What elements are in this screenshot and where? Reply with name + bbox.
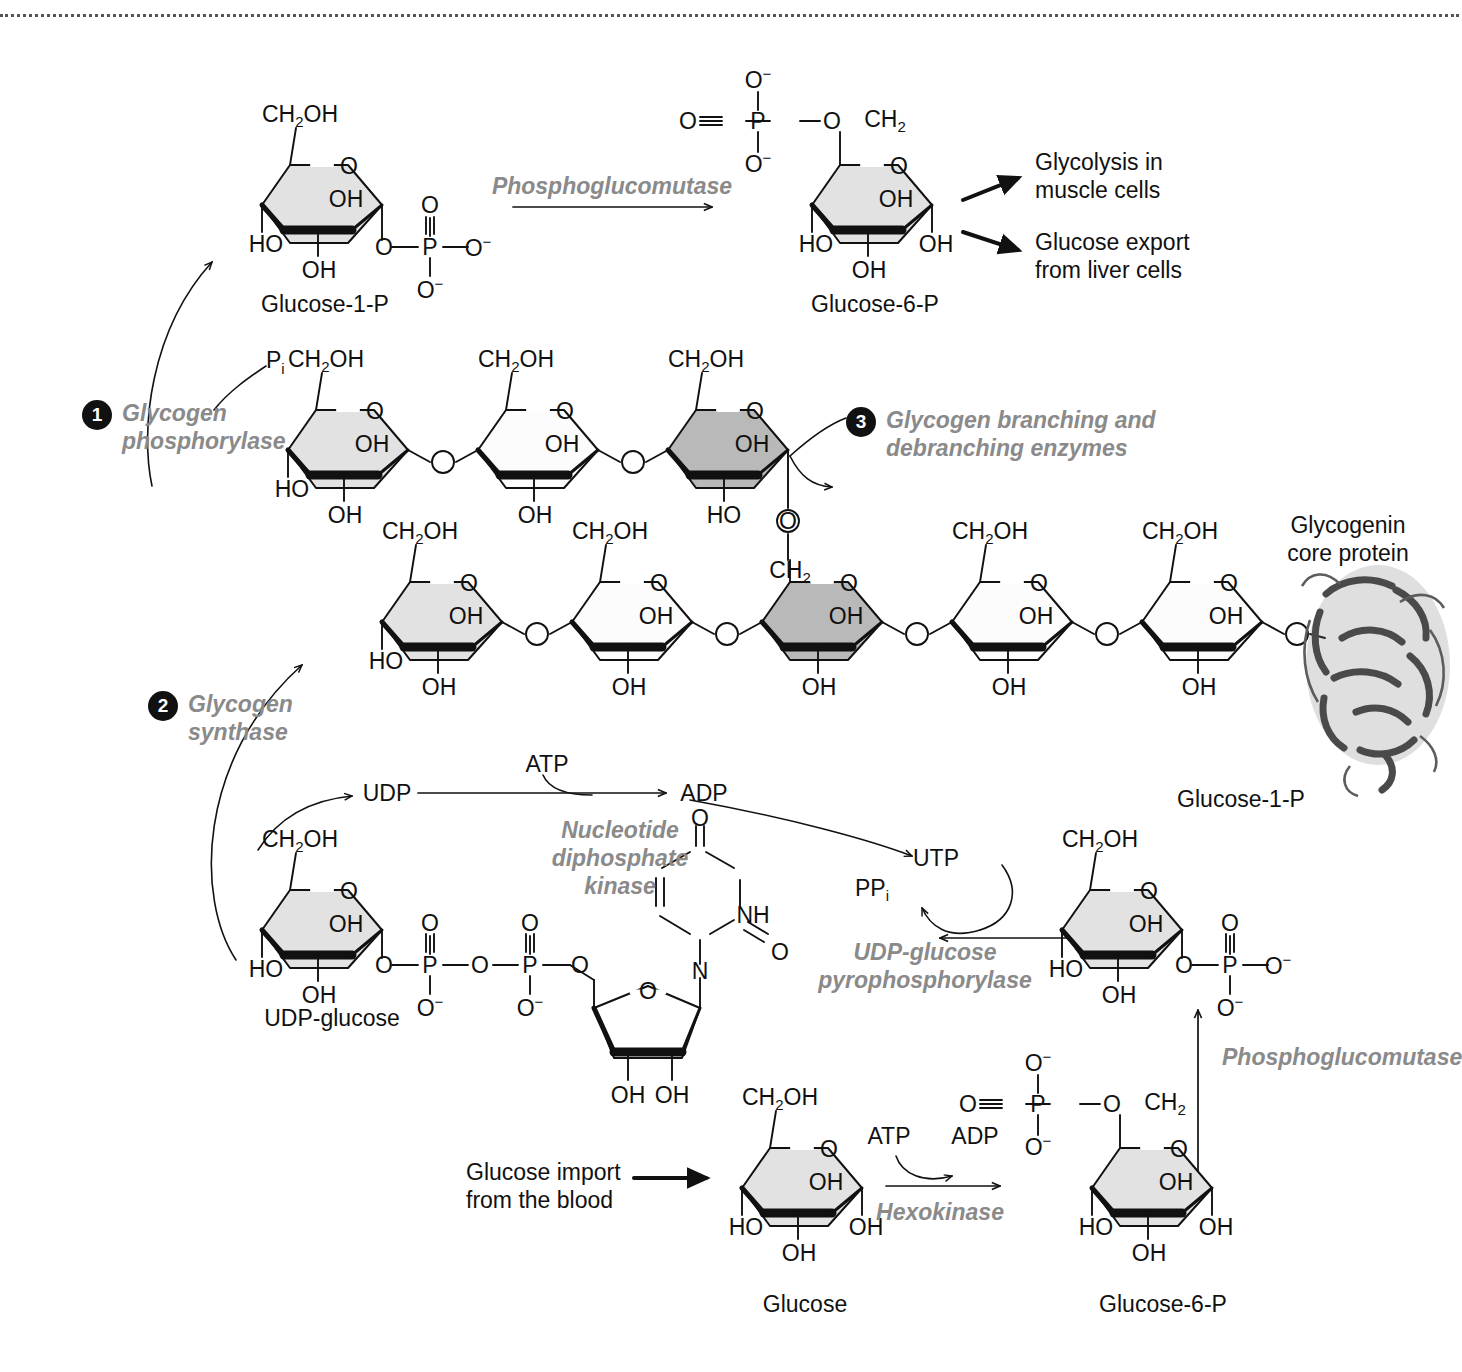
atom-ho-chain-a: HO [275,478,310,501]
atom-ring-o-s3: O [840,572,858,595]
atom-oh-chain-b: OH [545,433,580,456]
atom-oh-ribose-2: OH [655,1084,690,1107]
atom-p1-udpg: P [422,954,437,977]
atom-o-minus2-g6p-top: O− [745,150,772,176]
label-glucose-import: Glucose importfrom the blood [466,1158,621,1214]
enzyme-phosphoglucomutase-bottom: Phosphoglucomutase [1222,1043,1462,1071]
atom-o-branch: O [779,510,797,533]
atom-ch2-g6p-top: CH2 [864,108,906,135]
atom-o-ester-g6p-bottom: O [1103,1093,1121,1116]
atom-o-double-g1p-right: O [1221,912,1239,935]
atom-ch2oh-chain-c: CH2OH [668,348,744,375]
atom-ch2oh-g1p-top: CH2OH [262,103,338,130]
atom-ring-o-chain-b: O [556,400,574,423]
atom-ch2oh-s2: CH2OH [572,520,648,547]
fate-glycolysis-muscle: Glycolysis inmuscle cells [1035,148,1163,204]
atom-ring-o-s5: O [1220,572,1238,595]
step-label-3: Glycogen branching anddebranching enzyme… [886,406,1156,462]
small-molecule-pi: Pi [266,349,285,376]
enzyme-udp-glucose-pyrophosphorylase: UDP-glucosepyrophosphorylase [818,938,1031,994]
atom-ch2oh-chain-a: CH2OH [288,348,364,375]
small-molecule-adp-bottom: ADP [951,1125,998,1148]
atom-ho-g6p-top: HO [799,233,834,256]
enzyme-phosphoglucomutase-top: Phosphoglucomutase [492,172,732,200]
atom-ch2-g6p-bottom: CH2 [1144,1091,1186,1118]
atom-oh-g1p-top: OH [329,188,364,211]
atom-o-ester-g1p-right: O [1175,954,1193,977]
atom-p-g1p-top: P [422,236,437,259]
atom-ch2oh-s5: CH2OH [1142,520,1218,547]
atom-ring-o-s4: O [1030,572,1048,595]
atom-ho-g1p-right: HO [1049,958,1084,981]
atom-ring-o-g1p-right: O [1140,880,1158,903]
atom-o2-uracil: O [771,941,789,964]
atom-oh2-s4: OH [992,676,1027,699]
atom-nh-uracil: NH [736,904,769,927]
atom-o-minus2-g6p-bottom: O− [1025,1133,1052,1159]
atom-o-minus-p2-udpg: O− [517,994,544,1020]
atom-ring-o-udpg: O [340,880,358,903]
small-molecule-ppi: PPi [855,877,889,904]
atom-oh-ribose-3: OH [611,1084,646,1107]
atom-oh3-g6p-top: OH [919,233,954,256]
atom-ring-o-chain-c: O [746,400,764,423]
atom-ring-o-s2: O [650,572,668,595]
atom-o-ester-g6p-top: O [823,110,841,133]
atom-o-ester-g1p-top: O [375,236,393,259]
atom-oh2-g6p-top: OH [852,259,887,282]
atom-oh-g6p-bottom: OH [1159,1171,1194,1194]
atom-o-double-p1-udpg: O [421,912,439,935]
atom-ch2oh-s4: CH2OH [952,520,1028,547]
label-glucose: Glucose [763,1290,847,1318]
step-label-2: Glycogensynthase [188,690,293,746]
atom-o-double-g1p-top: O [421,194,439,217]
atom-oh2-s5: OH [1182,676,1217,699]
step-badge-2: 2 [148,691,178,721]
atom-ring-o-g6p-top: O [890,155,908,178]
atom-oh-chain-c: OH [735,433,770,456]
atom-o-minus2-g1p-top: O− [417,276,444,302]
atom-ho-s1: HO [369,650,404,673]
atom-o-minus-g1p-right: O− [1265,952,1292,978]
atom-ring-o-chain-a: O [366,400,384,423]
atom-oh-glucose: OH [809,1171,844,1194]
atom-oh2-g6p-bottom: OH [1132,1242,1167,1265]
glycogenin-protein-graphic [1302,565,1450,796]
step-badge-1: 1 [82,400,112,430]
atom-ring-o-s1: O [460,572,478,595]
label-glucose-1p-top: Glucose-1-P [261,290,389,318]
atom-o-double-p2-udpg: O [521,912,539,935]
atom-oh2-s1: OH [422,676,457,699]
step-label-1: Glycogenphosphorylase [122,399,286,455]
atom-o-double-g6p-bottom: O [959,1093,977,1116]
step-badge-3: 3 [846,407,876,437]
atom-ribose-ring-o: O [639,980,657,1003]
atom-ch2oh-g1p-right: CH2OH [1062,828,1138,855]
atom-o-double-g6p-top: O [679,110,697,133]
atom-ring-o-glucose: O [820,1138,838,1161]
atom-p-g6p-bottom: P [1030,1093,1045,1116]
atom-oh-s5: OH [1209,605,1244,628]
atom-oh2-g1p-top: OH [302,259,337,282]
atom-o-minus2-g1p-right: O− [1217,994,1244,1020]
atom-oh2-g1p-right: OH [1102,984,1137,1007]
atom-ho-udpg: HO [249,958,284,981]
enzyme-hexokinase: Hexokinase [876,1198,1004,1226]
atom-ch2oh-udpg: CH2OH [262,828,338,855]
fate-glucose-export-liver: Glucose exportfrom liver cells [1035,228,1190,284]
atom-p-g6p-top: P [750,110,765,133]
atom-ch2oh-glucose: CH2OH [742,1086,818,1113]
atom-ch2oh-s1: CH2OH [382,520,458,547]
atom-oh-s2: OH [639,605,674,628]
atom-o-minus-p1-udpg: O− [417,994,444,1020]
small-molecule-atp-bottom: ATP [867,1125,910,1148]
small-molecule-adp-top: ADP [680,782,727,805]
atom-o-ester2-udpg: O [571,954,589,977]
label-glucose-6p-top: Glucose-6-P [811,290,939,318]
atom-oh-s4: OH [1019,605,1054,628]
atom-oh-s1: OH [449,605,484,628]
atom-ch2-branch: CH2 [769,559,811,586]
small-molecule-utp: UTP [913,847,959,870]
